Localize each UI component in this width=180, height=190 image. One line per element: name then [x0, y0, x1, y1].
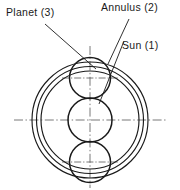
sun-label: Sun (1): [122, 39, 159, 51]
annulus-label: Annulus (2): [101, 1, 158, 13]
planetary-gear-diagram: Planet (3)Annulus (2)Sun (1): [0, 0, 180, 190]
planet-leader: [45, 24, 96, 69]
figure-canvas: Planet (3)Annulus (2)Sun (1): [0, 0, 180, 190]
planet-label: Planet (3): [6, 6, 55, 18]
